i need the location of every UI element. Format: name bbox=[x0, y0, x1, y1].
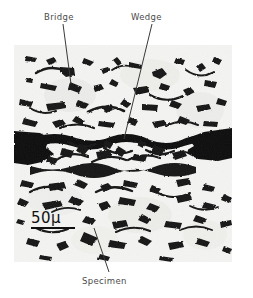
annotation-label-bridge: Bridge bbox=[44, 12, 74, 22]
micrograph-figure: Bridge Wedge Specimen 50μ bbox=[0, 0, 253, 298]
micrograph-image bbox=[0, 0, 253, 298]
annotation-label-specimen: Specimen bbox=[82, 276, 127, 286]
annotation-label-wedge: Wedge bbox=[131, 12, 162, 22]
scale-bar-label: 50μ bbox=[31, 211, 75, 226]
scale-bar-rule bbox=[31, 227, 75, 229]
scale-bar: 50μ bbox=[31, 211, 75, 229]
